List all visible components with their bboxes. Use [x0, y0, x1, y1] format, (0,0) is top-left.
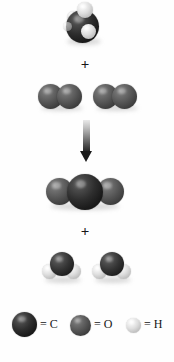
- molecule-water-1: [42, 252, 88, 284]
- arrow-shaft: [83, 120, 90, 152]
- oxygen-atom: [57, 84, 82, 109]
- hydrogen-atom: [77, 2, 93, 18]
- molecule-oxygen-1: [38, 84, 88, 112]
- reaction-diagram: + + = C: [0, 0, 174, 362]
- molecule-carbon-dioxide: [46, 174, 128, 212]
- hydrogen-atom: [63, 22, 72, 31]
- carbon-atom: [67, 174, 103, 210]
- molecule-water-2: [92, 252, 138, 284]
- plus-sign-reactants: +: [75, 57, 95, 72]
- legend-label-carbon: = C: [40, 318, 58, 330]
- plus-sign-products: +: [75, 224, 95, 239]
- hydrogen-icon: [126, 318, 141, 333]
- legend-item-oxygen: = O: [70, 308, 124, 342]
- legend-label-oxygen: = O: [94, 318, 112, 330]
- legend: = C = O = H: [0, 308, 174, 348]
- reaction-arrow: [80, 120, 93, 163]
- oxygen-icon: [70, 315, 91, 336]
- arrow-head: [80, 151, 92, 162]
- carbon-icon: [12, 312, 37, 337]
- oxygen-atom-dark: [100, 252, 124, 276]
- molecule-oxygen-2: [93, 84, 143, 112]
- hydrogen-atom: [81, 24, 96, 39]
- legend-item-carbon: = C: [12, 308, 70, 342]
- oxygen-atom: [112, 84, 137, 109]
- molecule-methane: [60, 2, 110, 48]
- oxygen-atom-dark: [50, 252, 74, 276]
- legend-item-hydrogen: = H: [126, 308, 174, 342]
- legend-label-hydrogen: = H: [144, 318, 162, 330]
